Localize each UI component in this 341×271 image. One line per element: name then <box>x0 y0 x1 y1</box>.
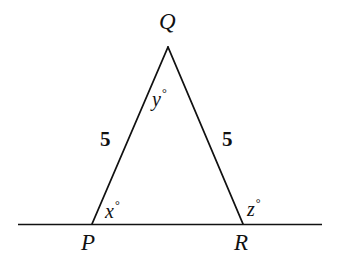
degree-symbol-x: ° <box>115 198 120 212</box>
vertex-label-r: R <box>234 231 249 254</box>
vertex-label-q: Q <box>159 10 176 33</box>
geometry-figure: Q P R 5 5 y° x° z° <box>0 0 341 271</box>
angle-label-y: y° <box>152 88 166 109</box>
degree-symbol-y: ° <box>162 86 167 100</box>
geometry-canvas <box>0 0 341 271</box>
angle-label-z: z° <box>247 198 260 219</box>
figure-background <box>0 0 341 271</box>
angle-variable-z: z <box>247 198 255 220</box>
angle-variable-x: x <box>105 200 114 222</box>
angle-variable-y: y <box>152 88 161 110</box>
degree-symbol-z: ° <box>256 196 261 210</box>
vertex-label-p: P <box>81 231 96 254</box>
side-length-label-left: 5 <box>100 129 111 150</box>
side-length-label-right: 5 <box>222 129 233 150</box>
angle-label-x: x° <box>105 200 119 221</box>
